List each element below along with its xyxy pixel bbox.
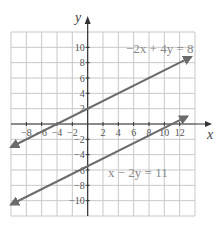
- graph: −8−6−4−224681012108642−2−4−6−8−10 x y −2…: [0, 0, 221, 239]
- y-tick-label: −10: [69, 195, 85, 206]
- y-tick-label: 4: [80, 88, 85, 99]
- y-tick-label: 10: [75, 42, 85, 53]
- x-tick-label: −4: [52, 127, 63, 138]
- x-tick-label: −8: [21, 127, 32, 138]
- y-tick-label: 8: [80, 57, 85, 68]
- equation-label-1: −2x + 4y = 8: [126, 41, 194, 56]
- x-tick-label: 12: [175, 127, 185, 138]
- y-axis-arrow-icon: [85, 16, 91, 24]
- equation-label-2: x − 2y = 11: [108, 165, 168, 180]
- y-tick-label: 6: [80, 73, 85, 84]
- y-tick-label: −8: [74, 180, 85, 191]
- x-tick-label: 6: [131, 127, 136, 138]
- x-axis-label: x: [206, 127, 214, 142]
- y-tick-label: −4: [74, 149, 85, 160]
- x-tick-label: 4: [116, 127, 121, 138]
- y-axis-label: y: [73, 10, 82, 25]
- x-tick-label: 2: [101, 127, 106, 138]
- y-tick-label: −2: [74, 134, 85, 145]
